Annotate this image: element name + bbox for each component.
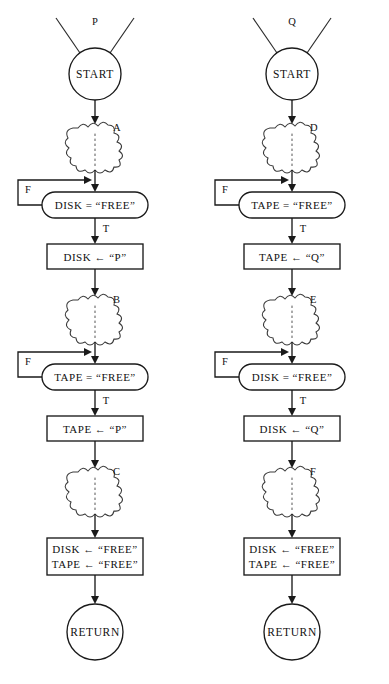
incoming-edge-left <box>56 18 80 53</box>
flowchart-canvas: P START A F DISK = “FREE” T <box>0 0 389 684</box>
test-node-tape-free-label: TAPE = “FREE” <box>54 371 135 383</box>
arrowhead <box>91 356 99 364</box>
arrowhead <box>288 596 296 604</box>
arrowhead <box>281 176 289 184</box>
arrowhead <box>288 460 296 468</box>
cloud-e-caption: E <box>310 294 316 305</box>
cloud-b-caption: B <box>113 294 120 305</box>
false-label-test2: F <box>25 356 31 367</box>
arrowhead <box>91 236 99 244</box>
start-node-p-label: START <box>76 68 114 80</box>
assign-node-tape-q-label: TAPE ← “Q” <box>259 251 325 263</box>
incoming-edge-right <box>307 18 331 53</box>
arrowhead <box>84 348 92 356</box>
assign-node-tape-p-label: TAPE ← “P” <box>63 423 127 435</box>
arrowhead <box>91 116 99 124</box>
return-node-p-label: RETURN <box>70 626 120 638</box>
cloud-f-caption: F <box>310 466 316 477</box>
arrowhead <box>91 184 99 192</box>
false-label-test1: F <box>25 184 31 195</box>
flowchart-diagram: P START A F DISK = “FREE” T <box>0 0 389 684</box>
test-node-disk-free-label: DISK = “FREE” <box>252 371 333 383</box>
arrowhead <box>281 348 289 356</box>
start-node-q-label: START <box>273 68 311 80</box>
column-process-p: P START A F DISK = “FREE” T <box>18 16 148 660</box>
column-process-q: Q START D F TAPE = “FREE” T TAPE ← “Q” <box>215 16 345 660</box>
cloud-c-caption: C <box>113 466 120 477</box>
arrowhead <box>91 460 99 468</box>
arrowhead <box>288 408 296 416</box>
process-label-p: P <box>92 16 98 27</box>
arrowhead <box>91 288 99 296</box>
true-label-test2: T <box>300 395 307 406</box>
arrowhead <box>288 116 296 124</box>
assign-node-disk-q-label: DISK ← “Q” <box>260 423 325 435</box>
cloud-a-caption: A <box>113 122 121 133</box>
incoming-edge-left <box>253 18 277 53</box>
arrowhead <box>288 530 296 538</box>
test-node-tape-free-label: TAPE = “FREE” <box>251 199 332 211</box>
true-label-test1: T <box>103 223 110 234</box>
arrowhead <box>288 236 296 244</box>
arrowhead <box>288 356 296 364</box>
release-node-p-line1: DISK ← “FREE” <box>52 543 137 555</box>
arrowhead <box>91 596 99 604</box>
release-node-q-line2: TAPE ← “FREE” <box>249 558 335 570</box>
return-node-q-label: RETURN <box>267 626 317 638</box>
release-node-q-line1: DISK ← “FREE” <box>249 543 334 555</box>
assign-node-disk-p-label: DISK ← “P” <box>63 251 126 263</box>
cloud-d-caption: D <box>310 122 318 133</box>
arrowhead <box>91 530 99 538</box>
true-label-test1: T <box>300 223 307 234</box>
arrowhead <box>288 184 296 192</box>
true-label-test2: T <box>103 395 110 406</box>
process-label-q: Q <box>288 16 296 27</box>
false-label-test2: F <box>222 356 228 367</box>
arrowhead <box>288 288 296 296</box>
release-node-p-line2: TAPE ← “FREE” <box>52 558 138 570</box>
false-label-test1: F <box>222 184 228 195</box>
incoming-edge-right <box>110 18 134 53</box>
arrowhead <box>84 176 92 184</box>
arrowhead <box>91 408 99 416</box>
test-node-disk-free-label: DISK = “FREE” <box>55 199 136 211</box>
